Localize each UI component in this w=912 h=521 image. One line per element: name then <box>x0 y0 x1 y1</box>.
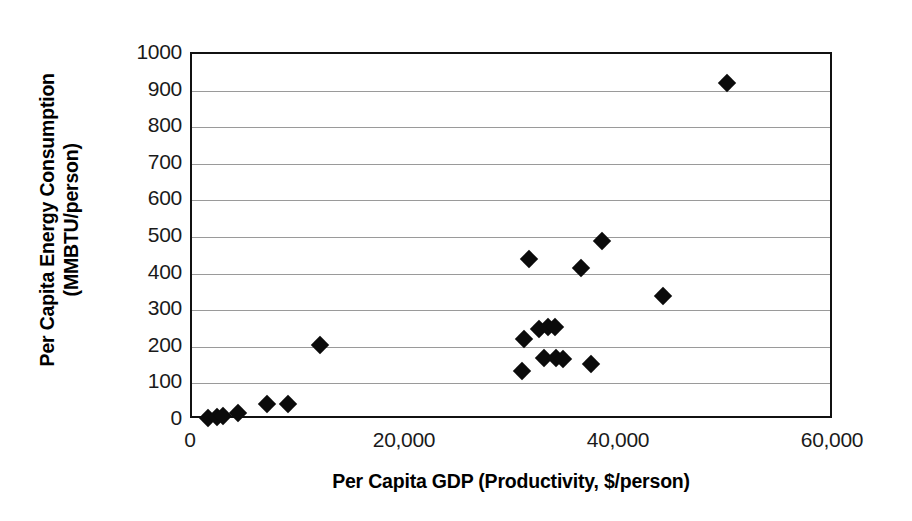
data-point-marker <box>258 394 276 412</box>
gridline <box>192 237 830 238</box>
gridline <box>192 383 830 384</box>
data-point-marker <box>279 394 297 412</box>
y-tick-label: 200 <box>116 334 182 355</box>
gridline <box>192 347 830 348</box>
x-tick-label: 40,000 <box>587 428 649 452</box>
y-axis-title-line1: Per Capita Energy Consumption <box>36 73 58 366</box>
gridline <box>192 274 830 275</box>
y-tick-label: 500 <box>116 224 182 245</box>
gridline <box>192 310 830 311</box>
plot-area <box>190 52 832 418</box>
y-tick-label: 900 <box>116 78 182 99</box>
gridline <box>192 127 830 128</box>
y-tick-label: 700 <box>116 151 182 172</box>
y-tick-label: 100 <box>116 370 182 391</box>
data-point-marker <box>311 336 329 354</box>
data-point-marker <box>520 250 538 268</box>
data-point-marker <box>593 231 611 249</box>
y-tick-label: 600 <box>116 187 182 208</box>
data-point-marker <box>654 286 672 304</box>
y-axis-title: Per Capita Energy Consumption (MMBTU/per… <box>0 0 120 440</box>
y-tick-label: 0 <box>116 407 182 428</box>
x-tick-label: 60,000 <box>801 428 863 452</box>
gridline <box>192 91 830 92</box>
data-point-marker <box>512 361 530 379</box>
y-axis-title-line2: (MMBTU/person) <box>60 73 84 366</box>
gridline <box>192 164 830 165</box>
y-tick-label: 1000 <box>116 41 182 62</box>
x-axis-tick-labels: 020,00040,00060,000 <box>0 428 912 462</box>
gridline <box>192 200 830 201</box>
y-tick-label: 800 <box>116 114 182 135</box>
scatter-chart-figure: Per Capita Energy Consumption (MMBTU/per… <box>0 0 912 521</box>
data-point-marker <box>582 355 600 373</box>
x-axis-title: Per Capita GDP (Productivity, $/person) <box>190 470 832 493</box>
y-tick-label: 400 <box>116 261 182 282</box>
y-tick-label: 300 <box>116 297 182 318</box>
x-tick-label: 0 <box>184 428 195 452</box>
x-tick-label: 20,000 <box>373 428 435 452</box>
data-point-marker <box>229 403 247 421</box>
